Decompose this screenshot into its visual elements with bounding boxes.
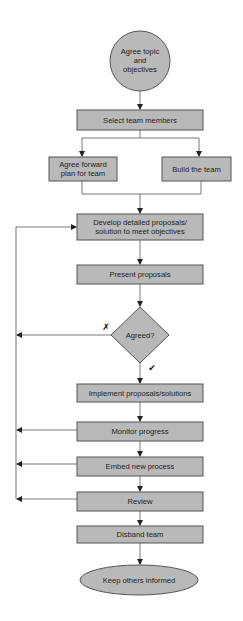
- node-develop-line-2: solution to meet objectives: [95, 227, 185, 236]
- node-select-team: Select team members: [77, 110, 203, 130]
- node-implement-label: Implement proposals/solutions: [89, 389, 192, 398]
- node-develop-line-1: Develop detailed proposals/: [93, 218, 188, 227]
- node-develop: Develop detailed proposals/ solution to …: [77, 214, 203, 240]
- decision-yes-icon: ✔: [148, 363, 156, 373]
- node-review-label: Review: [128, 497, 153, 506]
- node-start-line-3: objectives: [123, 65, 157, 74]
- flowchart: Agree topic and objectives Select team m…: [0, 0, 243, 621]
- node-agree-plan-line-2: plan for team: [61, 169, 105, 178]
- node-build-team-label: Build the team: [172, 165, 221, 174]
- node-start-line-1: Agree topic: [121, 47, 160, 56]
- node-present: Present proposals: [77, 265, 203, 284]
- node-disband: Disband team: [77, 526, 203, 543]
- decision-no-icon: ✗: [102, 322, 110, 332]
- node-end-label: Keep others informed: [103, 576, 176, 585]
- node-monitor: Monitor progress: [77, 422, 203, 441]
- node-select-team-label: Select team members: [103, 116, 177, 125]
- node-agree-plan: Agree forward plan for team: [49, 157, 117, 181]
- node-decision: Agreed?: [111, 307, 169, 363]
- node-implement: Implement proposals/solutions: [77, 384, 203, 402]
- node-agree-plan-line-1: Agree forward: [59, 160, 107, 169]
- node-end: Keep others informed: [80, 565, 198, 595]
- node-monitor-label: Monitor progress: [112, 427, 169, 436]
- node-disband-label: Disband team: [117, 530, 164, 539]
- node-decision-label: Agreed?: [126, 331, 155, 340]
- node-start: Agree topic and objectives: [110, 31, 170, 91]
- node-present-label: Present proposals: [109, 270, 170, 279]
- node-review: Review: [77, 492, 203, 511]
- node-start-line-2: and: [134, 56, 147, 65]
- node-embed: Embed new process: [77, 457, 203, 476]
- node-embed-label: Embed new process: [106, 462, 175, 471]
- node-build-team: Build the team: [162, 157, 231, 181]
